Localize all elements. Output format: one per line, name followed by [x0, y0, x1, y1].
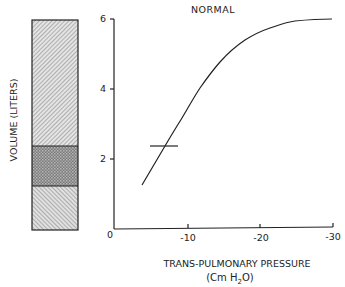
x-tick-label: -30 — [325, 231, 341, 242]
x-axis-label: TRANS-PULMONARY PRESSURE — [162, 258, 310, 269]
axes — [110, 19, 333, 229]
x-tick-label: -10 — [180, 232, 196, 243]
x-tick-label: -20 — [253, 232, 269, 243]
pressure-volume-figure: VOLUME (LITERS) NORMAL 6 4 2 0 -10 -20 -… — [0, 0, 345, 287]
x-axis — [114, 227, 333, 229]
pressure-volume-curve — [142, 19, 332, 185]
bar-segment-upper — [32, 20, 78, 146]
lung-volume-bar — [32, 20, 78, 230]
y-tick-label: 0 — [107, 229, 113, 240]
y-tick-label: 4 — [100, 83, 106, 94]
x-units-pre: (Cm H — [206, 272, 237, 283]
x-units-post: O) — [242, 272, 254, 283]
y-tick-label: 6 — [100, 13, 106, 24]
x-axis-units: (Cm H2O) — [206, 272, 254, 286]
y-tick-label: 2 — [100, 153, 106, 164]
y-axis-label: VOLUME (LITERS) — [8, 79, 19, 162]
chart-title: NORMAL — [191, 4, 235, 15]
bar-segment-middle — [32, 146, 78, 186]
bar-segment-lower — [32, 186, 78, 230]
